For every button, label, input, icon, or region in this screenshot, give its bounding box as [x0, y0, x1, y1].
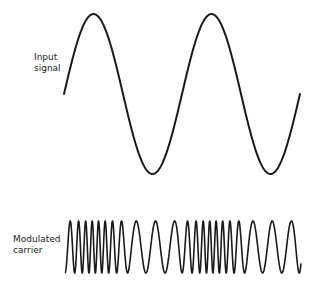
waveform-diagram: [0, 0, 317, 295]
input-signal-waveform: [64, 14, 300, 174]
modulated-carrier-waveform: [65, 221, 301, 273]
